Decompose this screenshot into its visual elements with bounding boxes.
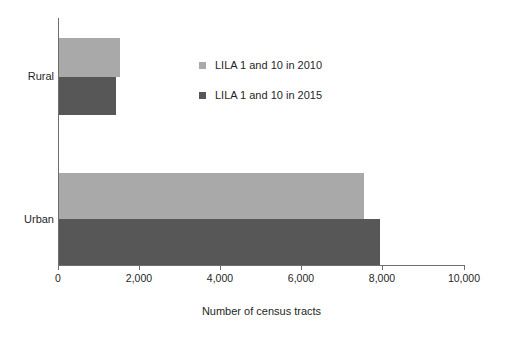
bar-chart: Rural Urban 0 2,000 4,000 6,000 8,000 10…	[0, 0, 511, 338]
x-tick-mark-10000	[464, 266, 465, 270]
x-axis-title: Number of census tracts	[58, 304, 465, 318]
x-tick-label-6000: 6,000	[288, 272, 314, 285]
x-tick-label-8000: 8,000	[369, 272, 395, 285]
legend-label-2015: LILA 1 and 10 in 2015	[215, 89, 322, 102]
legend-item-2015: LILA 1 and 10 in 2015	[199, 80, 322, 110]
x-tick-mark-4000	[220, 266, 221, 270]
legend-swatch-icon-2015	[199, 92, 206, 99]
bar-rural-2010	[59, 38, 120, 77]
x-tick-mark-6000	[301, 266, 302, 270]
x-tick-mark-0	[58, 266, 59, 270]
x-tick-label-10000: 10,000	[448, 272, 480, 285]
bar-urban-2010	[59, 173, 364, 219]
x-tick-mark-2000	[139, 266, 140, 270]
chart-legend: LILA 1 and 10 in 2010 LILA 1 and 10 in 2…	[199, 50, 322, 110]
legend-label-2010: LILA 1 and 10 in 2010	[215, 59, 322, 72]
x-tick-label-2000: 2,000	[126, 272, 152, 285]
x-tick-mark-8000	[382, 266, 383, 270]
x-tick-label-0: 0	[55, 272, 61, 285]
x-axis-line	[58, 265, 465, 266]
bar-urban-2015	[59, 219, 380, 265]
x-tick-label-4000: 4,000	[207, 272, 233, 285]
category-label-urban: Urban	[0, 213, 54, 226]
bar-rural-2015	[59, 77, 116, 115]
category-label-rural: Rural	[0, 70, 54, 83]
legend-item-2010: LILA 1 and 10 in 2010	[199, 50, 322, 80]
legend-swatch-icon-2010	[199, 62, 206, 69]
